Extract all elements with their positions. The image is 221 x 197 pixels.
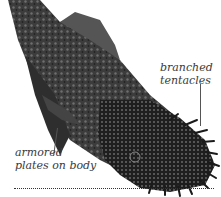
plates-line-2: plates on body (15, 159, 96, 172)
tentacles-line-2: tentacles (160, 74, 213, 87)
tentacles-annotation: branched tentacles (160, 61, 213, 87)
tentacles-leader-line (200, 84, 201, 126)
plates-annotation: armored plates on body (15, 146, 96, 172)
tentacles-line-1: branched (160, 61, 213, 74)
plates-line-1: armored (15, 146, 96, 159)
figure-canvas: branched tentacles armored plates on bod… (0, 0, 221, 197)
fish-head (98, 100, 215, 192)
dotted-baseline (14, 188, 214, 189)
